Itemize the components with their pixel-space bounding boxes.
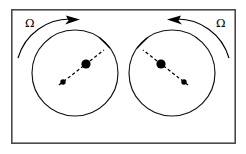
rotor-diagram: Ω Ω xyxy=(0,0,246,154)
omega-label-left: Ω xyxy=(25,16,35,30)
rotor-left-large-mass xyxy=(81,59,90,68)
rotor-right-large-mass xyxy=(156,59,165,68)
figure-root: Ω Ω xyxy=(0,0,246,154)
rotor-left-small-mass xyxy=(60,79,65,84)
omega-label-right: Ω xyxy=(216,16,226,30)
rotor-right-small-mass xyxy=(181,79,186,84)
figure-frame xyxy=(12,10,235,143)
